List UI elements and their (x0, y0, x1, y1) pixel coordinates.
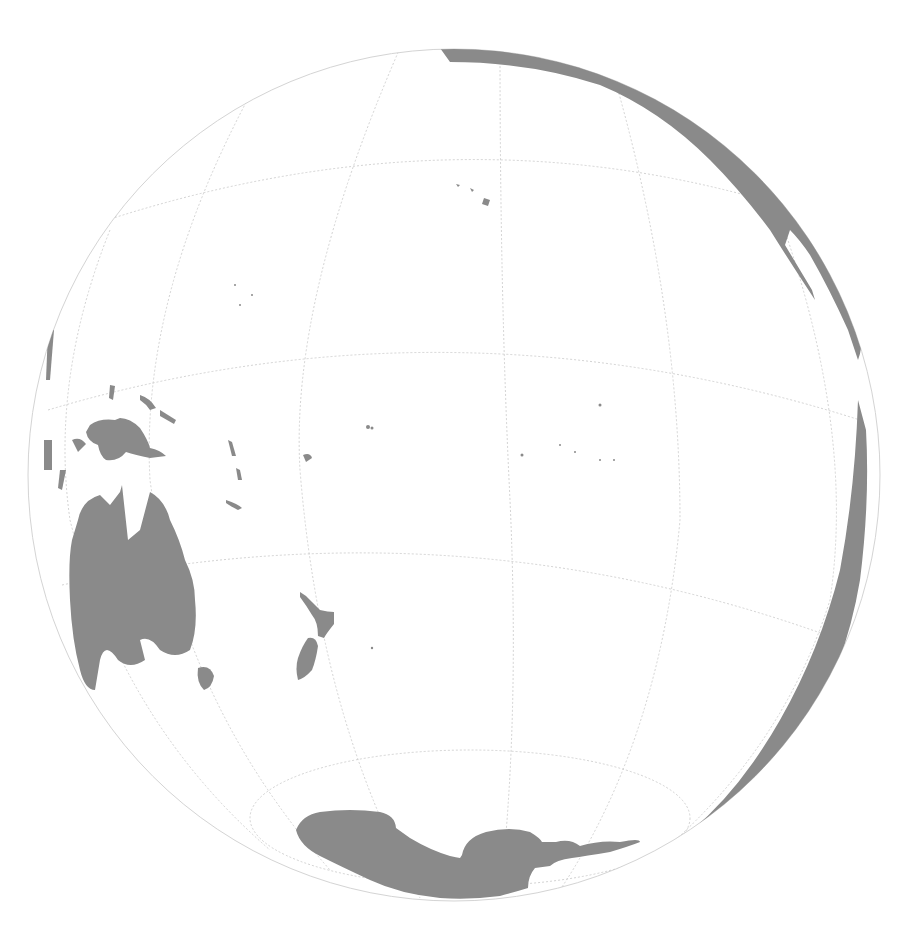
globe-map (0, 0, 904, 929)
globe-svg (0, 0, 904, 929)
